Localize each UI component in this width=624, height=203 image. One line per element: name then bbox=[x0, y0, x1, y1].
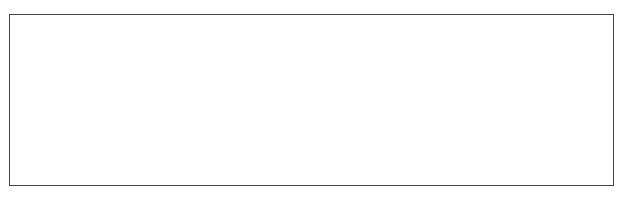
chromatogram-plot bbox=[0, 0, 624, 203]
